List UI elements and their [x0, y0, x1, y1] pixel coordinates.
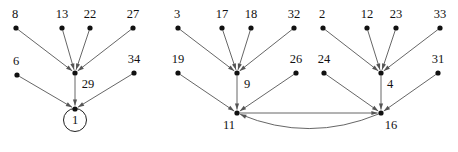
- node-label-33: 33: [434, 7, 447, 21]
- graph-node-34[interactable]: [131, 70, 136, 75]
- edge-arrowhead: [78, 102, 84, 107]
- node-label-4: 4: [387, 77, 394, 91]
- graph-node-22[interactable]: [87, 25, 92, 30]
- node-label-34: 34: [128, 52, 141, 66]
- graph-node-11[interactable]: [234, 110, 239, 115]
- graph-node-33[interactable]: [437, 25, 442, 30]
- node-label-31: 31: [432, 52, 445, 66]
- node-label-13: 13: [56, 7, 69, 21]
- graph-node-9[interactable]: [234, 70, 239, 75]
- graph-node-2[interactable]: [320, 25, 325, 30]
- graph-node-17[interactable]: [219, 25, 224, 30]
- edge-arrowhead: [70, 63, 74, 70]
- node-label-3: 3: [174, 7, 180, 21]
- node-label-24: 24: [318, 52, 331, 66]
- graph-edge: [180, 30, 234, 71]
- node-label-12: 12: [361, 7, 374, 21]
- graph-node-13[interactable]: [59, 25, 64, 30]
- edge-arrowhead: [66, 102, 72, 107]
- graph-node-31[interactable]: [435, 70, 440, 75]
- edge-arrowhead: [228, 106, 234, 111]
- graph-node-18[interactable]: [248, 25, 253, 30]
- edge-arrowhead: [66, 66, 72, 71]
- node-label-19: 19: [172, 52, 185, 66]
- edge-arrowhead: [73, 99, 77, 105]
- node-label-26: 26: [290, 52, 303, 66]
- node-label-18: 18: [245, 7, 258, 21]
- graph-node-32[interactable]: [291, 25, 296, 30]
- node-label-2: 2: [319, 7, 325, 21]
- edge-arrowhead: [240, 114, 247, 118]
- edge-arrowhead: [240, 106, 246, 111]
- node-label-27: 27: [127, 7, 140, 21]
- graph-node-16[interactable]: [378, 110, 383, 115]
- node-label-8: 8: [12, 7, 18, 21]
- graph-node-1[interactable]: [72, 106, 77, 111]
- graph-node-26[interactable]: [293, 70, 298, 75]
- node-label-11: 11: [223, 118, 235, 132]
- graph-node-27[interactable]: [130, 25, 135, 30]
- graph-node-29[interactable]: [72, 70, 77, 75]
- graph-node-8[interactable]: [13, 25, 18, 30]
- node-label-22: 22: [84, 7, 97, 21]
- graph-node-19[interactable]: [175, 70, 180, 75]
- graph-node-4[interactable]: [378, 70, 383, 75]
- graph-node-6[interactable]: [14, 72, 19, 77]
- edge-arrowhead: [372, 106, 378, 111]
- node-label-23: 23: [390, 7, 403, 21]
- graph-edge: [326, 74, 378, 111]
- graph-edge: [180, 74, 234, 111]
- node-label-9: 9: [244, 77, 250, 91]
- graph-edge: [78, 30, 131, 71]
- graph-node-23[interactable]: [393, 25, 398, 30]
- edge-arrowhead: [379, 103, 383, 109]
- node-label-29: 29: [82, 77, 95, 91]
- node-label-32: 32: [288, 7, 301, 21]
- graph-figure: 8132227629341317183221223331992624431111…: [0, 0, 458, 152]
- edge-arrowhead: [235, 103, 239, 109]
- node-label-6: 6: [13, 54, 19, 68]
- graph-edge: [240, 30, 292, 71]
- graph-edge: [19, 76, 72, 107]
- node-label-17: 17: [216, 7, 229, 21]
- graph-edge: [240, 114, 378, 129]
- node-label-1: 1: [72, 113, 78, 127]
- graph-canvas: 8132227629341317183221223331992624431111…: [0, 0, 458, 152]
- graph-edge: [325, 30, 378, 71]
- graph-node-24[interactable]: [321, 70, 326, 75]
- node-label-16: 16: [385, 118, 398, 132]
- graph-node-12[interactable]: [364, 25, 369, 30]
- edge-arrowhead: [384, 106, 390, 111]
- graph-node-3[interactable]: [175, 25, 180, 30]
- graph-edge: [384, 30, 438, 71]
